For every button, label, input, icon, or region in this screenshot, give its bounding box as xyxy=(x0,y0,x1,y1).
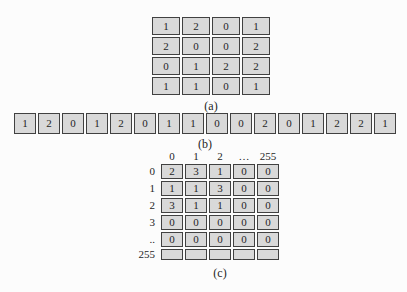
table-c-cell: 1 xyxy=(209,164,231,179)
array-b-cell: 2 xyxy=(38,113,60,134)
table-c-cell: 0 xyxy=(233,164,255,179)
table-c-cell: 0 xyxy=(185,215,207,230)
row-header: 3 xyxy=(135,215,159,230)
array-b-cell: 0 xyxy=(206,113,228,134)
matrix-a-cell: 0 xyxy=(212,17,240,35)
table-row: 0 1 2 2 xyxy=(152,57,270,75)
array-b-cell: 1 xyxy=(86,113,108,134)
column-header: 255 xyxy=(257,149,279,162)
table-c-cell: 1 xyxy=(185,181,207,196)
column-header-ellipsis: … xyxy=(233,149,255,162)
table-c-cell: 0 xyxy=(161,215,183,230)
column-header-row: 0 1 2 … 255 xyxy=(135,149,279,162)
table-row: .. 0 0 0 0 0 xyxy=(135,232,279,247)
matrix-a-cell: 0 xyxy=(212,37,240,55)
matrix-a-cell: 0 xyxy=(212,77,240,95)
matrix-a-cell: 2 xyxy=(242,37,270,55)
table-c-cell: 0 xyxy=(233,198,255,213)
matrix-a-cell: 2 xyxy=(152,37,180,55)
matrix-a-cell: 0 xyxy=(152,57,180,75)
table-row-truncated: 255 xyxy=(135,249,279,260)
table-c-cell: 1 xyxy=(185,198,207,213)
matrix-a-cell: 1 xyxy=(152,77,180,95)
row-header: 255 xyxy=(135,249,159,260)
figure-page: 1 2 0 1 2 0 0 2 0 1 2 2 1 xyxy=(0,0,407,292)
table-c-cell: 0 xyxy=(233,215,255,230)
matrix-a-cell: 1 xyxy=(152,17,180,35)
matrix-a-cell: 1 xyxy=(242,77,270,95)
table-c-cell: 1 xyxy=(161,181,183,196)
table-c-cell: 0 xyxy=(257,232,279,247)
column-header: 2 xyxy=(209,149,231,162)
part-c: 0 1 2 … 255 0 2 3 1 0 0 1 1 1 xyxy=(133,147,281,281)
table-row: 1 2 0 1 xyxy=(152,17,270,35)
matrix-a-cell: 2 xyxy=(242,57,270,75)
array-b-cell: 1 xyxy=(158,113,180,134)
table-c-cell: 2 xyxy=(161,164,183,179)
table-c-cell: 0 xyxy=(209,215,231,230)
array-b-cell: 2 xyxy=(254,113,276,134)
table-c: 0 1 2 … 255 0 2 3 1 0 0 1 1 1 xyxy=(133,147,281,262)
matrix-a-cell: 1 xyxy=(182,57,210,75)
matrix-a: 1 2 0 1 2 0 0 2 0 1 2 2 1 xyxy=(150,15,272,97)
table-row: 1 1 0 1 xyxy=(152,77,270,95)
array-b-cell: 2 xyxy=(326,113,348,134)
table-c-cell: 3 xyxy=(185,164,207,179)
table-c-cell: 0 xyxy=(233,181,255,196)
row-header: 0 xyxy=(135,164,159,179)
table-c-cell: 0 xyxy=(185,232,207,247)
array-b-cell: 0 xyxy=(230,113,252,134)
matrix-a-cell: 1 xyxy=(182,77,210,95)
caption-c: (c) xyxy=(133,266,281,281)
table-row: 2 0 0 2 xyxy=(152,37,270,55)
table-row: 1 1 1 3 0 0 xyxy=(135,181,279,196)
array-b-cell: 2 xyxy=(110,113,132,134)
table-row: 3 0 0 0 0 0 xyxy=(135,215,279,230)
array-b-cell: 2 xyxy=(350,113,372,134)
table-c-cell: 0 xyxy=(209,232,231,247)
table-c-cell: 0 xyxy=(161,232,183,247)
array-b-cell: 0 xyxy=(278,113,300,134)
matrix-a-cell: 0 xyxy=(182,37,210,55)
table-c-cell: 3 xyxy=(209,181,231,196)
array-b-cell: 1 xyxy=(14,113,36,134)
row-header: 1 xyxy=(135,181,159,196)
table-c-cell: 0 xyxy=(257,215,279,230)
matrix-a-cell: 2 xyxy=(182,17,210,35)
table-c-cell: 0 xyxy=(257,181,279,196)
matrix-a-cell: 1 xyxy=(242,17,270,35)
table-c-cell: 0 xyxy=(233,232,255,247)
table-c-cell: 0 xyxy=(257,198,279,213)
table-c-cell-empty xyxy=(209,249,231,260)
table-c-cell: 0 xyxy=(257,164,279,179)
table-row: 2 3 1 1 0 0 xyxy=(135,198,279,213)
corner-spacer xyxy=(135,149,159,162)
row-header: 2 xyxy=(135,198,159,213)
table-c-cell-empty xyxy=(161,249,183,260)
row-header-ellipsis: .. xyxy=(135,232,159,247)
part-b: 1 2 0 1 2 0 1 1 0 0 2 0 1 2 2 1 xyxy=(12,111,398,152)
column-header: 1 xyxy=(185,149,207,162)
table-c-cell: 1 xyxy=(209,198,231,213)
array-b-cell: 1 xyxy=(374,113,396,134)
matrix-a-cell: 2 xyxy=(212,57,240,75)
table-row: 0 2 3 1 0 0 xyxy=(135,164,279,179)
array-b: 1 2 0 1 2 0 1 1 0 0 2 0 1 2 2 1 xyxy=(12,111,398,136)
array-b-cell: 0 xyxy=(62,113,84,134)
table-c-cell-empty xyxy=(257,249,279,260)
table-row: 1 2 0 1 2 0 1 1 0 0 2 0 1 2 2 1 xyxy=(14,113,396,134)
table-c-cell: 3 xyxy=(161,198,183,213)
array-b-cell: 0 xyxy=(134,113,156,134)
table-c-cell-empty xyxy=(233,249,255,260)
column-header: 0 xyxy=(161,149,183,162)
part-a: 1 2 0 1 2 0 0 2 0 1 2 2 1 xyxy=(150,15,272,114)
table-c-cell-empty xyxy=(185,249,207,260)
array-b-cell: 1 xyxy=(302,113,324,134)
array-b-cell: 1 xyxy=(182,113,204,134)
